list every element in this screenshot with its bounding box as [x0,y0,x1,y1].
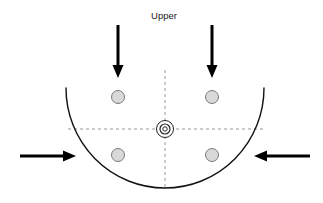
arrow-top-right-head [207,65,218,78]
arrow-top-left-shaft [117,25,120,66]
node-upper-left [112,91,125,104]
node-upper-right [206,91,219,104]
arrow-top-left-head [113,65,124,78]
center-inner-dot [163,127,167,131]
label-upper: Upper [151,10,177,21]
arrow-left [20,151,76,162]
node-lower-right [206,149,219,162]
arrow-top-left [113,25,124,78]
arrow-right-shaft [266,155,310,158]
arrow-left-shaft [20,155,64,158]
arrow-right-head [254,151,267,162]
center-target-marker [157,121,174,138]
arrow-group [20,25,310,162]
arrow-right [254,151,310,162]
node-lower-left [112,149,125,162]
schematic-drawing: Upper [0,0,323,203]
arrow-top-right [207,25,218,78]
label-group: Upper [151,10,177,21]
arrow-left-head [63,151,76,162]
diagram-canvas: Upper [0,0,323,203]
arrow-top-right-shaft [211,25,214,66]
